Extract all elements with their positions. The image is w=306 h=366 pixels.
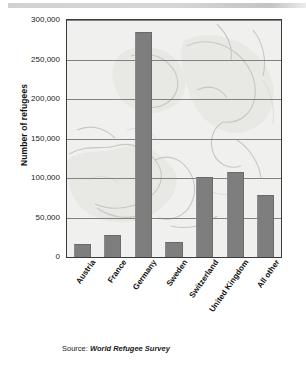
source-caption: Source: World Refugee Survey — [62, 344, 170, 353]
bar-germany — [135, 32, 152, 257]
x-axis-category-labels: AustriaFranceGermanySwedenSwitzerlandUni… — [66, 258, 280, 338]
bar-austria — [74, 244, 91, 257]
refugees-bar-chart-figure: Number of refugees 050,000100,000150,000… — [0, 0, 306, 366]
bars-group — [67, 20, 281, 257]
y-axis-tick-label: 300,000 — [31, 15, 60, 24]
y-axis-tick-label: 0 — [56, 252, 60, 261]
y-axis-tick-label: 150,000 — [31, 133, 60, 142]
plot-area — [66, 19, 282, 258]
y-axis-tick-label: 200,000 — [31, 94, 60, 103]
y-axis-tick-label: 250,000 — [31, 54, 60, 63]
source-label: Source: — [62, 344, 88, 353]
y-axis-tick-label: 100,000 — [31, 173, 60, 182]
y-axis-tick-labels: 050,000100,000150,000200,000250,000300,0… — [0, 19, 64, 256]
y-axis-tick-label: 50,000 — [36, 212, 60, 221]
source-title: World Refugee Survey — [90, 344, 170, 353]
